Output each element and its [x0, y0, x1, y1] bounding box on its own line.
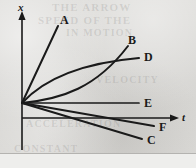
- displacement-axis-label: x: [18, 2, 24, 13]
- curve-label-f: F: [159, 121, 166, 133]
- curve-label-b: B: [128, 34, 136, 46]
- time-axis-arrowhead: [170, 115, 179, 122]
- curve-label-e: E: [144, 97, 152, 109]
- graph-plot-area: [0, 0, 196, 168]
- curve-label-a: A: [60, 14, 69, 26]
- curve-a-line: [22, 26, 58, 103]
- page-margin-strip: [0, 154, 196, 168]
- time-axis-label: t: [182, 112, 185, 123]
- curve-label-c: C: [147, 134, 156, 146]
- curve-label-d: D: [144, 51, 153, 63]
- curve-b-path: [22, 46, 128, 103]
- figure-container: THE ARROW SPEED OF THE IN MOTION VELOCIT…: [0, 0, 196, 168]
